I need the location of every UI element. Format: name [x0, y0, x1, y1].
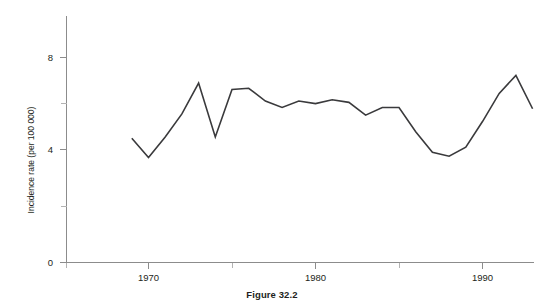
- y-axis-label: Incidence rate (per 100 000): [26, 106, 36, 213]
- figure-container: 8 4 0 1970 1980 1990 Incidence rate (per…: [0, 0, 544, 308]
- chart-plot-area: 8 4 0 1970 1980 1990 Incidence rate (per…: [0, 0, 544, 286]
- line-chart-svg: 8 4 0 1970 1980 1990 Incidence rate (per…: [0, 0, 544, 286]
- y-tick-label-8: 8: [48, 52, 53, 63]
- y-axis-group: [60, 16, 67, 263]
- x-tick-label-1970: 1970: [138, 272, 159, 283]
- tick-label-group: 8 4 0 1970 1980 1990: [48, 52, 493, 283]
- x-axis-group: [67, 263, 535, 269]
- x-tick-label-1980: 1980: [305, 272, 326, 283]
- figure-caption: Figure 32.2: [0, 289, 544, 300]
- data-series-line: [132, 75, 533, 157]
- x-tick-label-1990: 1990: [472, 272, 493, 283]
- y-tick-label-0: 0: [48, 257, 53, 268]
- y-tick-label-4: 4: [48, 144, 53, 155]
